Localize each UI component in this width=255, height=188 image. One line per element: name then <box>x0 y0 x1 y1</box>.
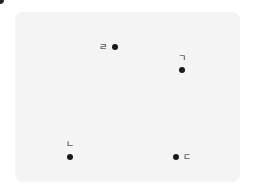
point-giyeok-dot <box>179 67 185 73</box>
point-digeut-dot <box>173 154 179 160</box>
corner-artifact <box>0 0 4 4</box>
point-giyeok-label: ㄱ <box>178 54 186 63</box>
diagram-panel <box>15 12 240 182</box>
point-nieun-dot <box>67 154 73 160</box>
point-digeut-label: ㄷ <box>183 153 191 162</box>
point-nieun-label: ㄴ <box>66 140 74 149</box>
point-rieul-dot <box>112 44 118 50</box>
point-rieul-label: ㄹ <box>99 43 107 52</box>
